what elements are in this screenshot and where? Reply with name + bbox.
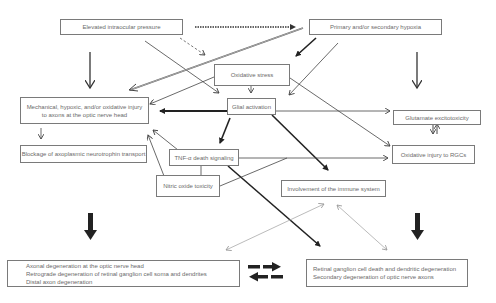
edge-iop-oxidative-stress <box>180 38 205 55</box>
edge-glial-tnf <box>220 118 230 143</box>
node-label-line1: Mechanical, hypoxic, and/or oxidative in… <box>27 103 143 111</box>
node-label: Elevated intraocular pressure <box>82 23 160 31</box>
node-rgc-death: Retinal ganglion cell death and dendriti… <box>306 259 468 287</box>
edge-right-big-down <box>411 213 424 240</box>
node-oxidative-stress: Oxidative stress <box>214 64 290 86</box>
node-tnf-signaling: TNF-α death signaling <box>169 149 239 166</box>
node-label: Glial activation <box>232 103 271 111</box>
edge-axonal-rgc-death <box>248 262 283 282</box>
node-blockage-transport: Blockage of axoplasmic neurotrophin tran… <box>20 145 147 163</box>
node-label: Oxidative injury to RGCs <box>401 151 467 159</box>
node-label: Primary and/or secondary hypoxia <box>330 23 421 31</box>
edge-tnf-mechanical <box>153 130 178 150</box>
glaucoma-pathway-diagram: Elevated intraocular pressure Primary an… <box>0 0 496 303</box>
edge-hypoxia-glial <box>289 43 338 95</box>
node-label-line2: Secondary degeneration of optic nerve ax… <box>313 273 434 281</box>
node-mechanical-injury: Mechanical, hypoxic, and/or oxidative in… <box>20 97 149 124</box>
edge-tnf-rgc-death <box>228 166 320 246</box>
edge-nitric-mechanical <box>148 135 164 176</box>
node-label-line2: to axons at the optic nerve head <box>27 111 143 119</box>
edge-immune-rgc-death <box>337 205 387 250</box>
node-glial-activation: Glial activation <box>227 98 276 115</box>
node-label: Nitric oxide toxicity <box>163 182 213 190</box>
edge-glial-immune <box>272 115 328 170</box>
node-label-line1: Axonal degeneration at the optic nerve h… <box>26 262 144 270</box>
node-label: Oxidative stress <box>231 71 274 79</box>
edge-iop-glial <box>145 41 219 93</box>
node-glutamate-excitotoxicity: Glutamate excitotoxicity <box>393 110 481 125</box>
edge-iop-hypoxia <box>195 24 296 30</box>
node-label: TNF-α death signaling <box>174 154 233 162</box>
node-elevated-iop: Elevated intraocular pressure <box>60 19 183 35</box>
edge-oxidative-stress-oxidative-rgc <box>290 78 390 146</box>
node-label: Blockage of axoplasmic neurotrophin tran… <box>22 150 146 158</box>
edge-oxidative-stress-mechanical <box>150 77 214 104</box>
node-label: Glutamate excitotoxicity <box>405 114 468 122</box>
edge-hypoxia-oxidative-stress <box>296 38 316 56</box>
node-immune-system: Involvement of the immune system <box>281 180 386 197</box>
node-axonal-degeneration: Axonal degeneration at the optic nerve h… <box>7 260 240 287</box>
node-label-line2: Retrograde degeneration of retinal gangl… <box>26 270 207 278</box>
node-hypoxia: Primary and/or secondary hypoxia <box>309 19 442 35</box>
node-nitric-oxide: Nitric oxide toxicity <box>156 175 220 197</box>
node-label: Involvement of the immune system <box>287 185 380 193</box>
node-label-line1: Retinal ganglion cell death and dendriti… <box>313 265 456 273</box>
edge-immune-axonal <box>226 204 324 250</box>
edge-left-big-down <box>84 213 97 240</box>
edge-glutamate-oxidative-rgc <box>433 124 437 134</box>
node-oxidative-injury-rgc: Oxidative injury to RGCs <box>392 145 475 164</box>
node-label-line3: Distal axon degeneration <box>26 278 92 286</box>
